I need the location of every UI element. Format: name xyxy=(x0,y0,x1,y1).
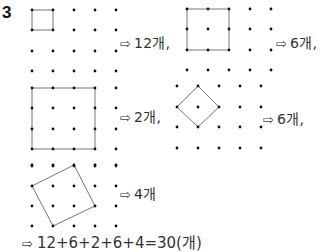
grid-dot xyxy=(94,164,97,167)
grid-dot xyxy=(94,70,97,73)
grid-dot xyxy=(31,148,34,151)
grid-dot xyxy=(52,185,55,188)
grid-dot xyxy=(52,9,55,12)
grid-dot xyxy=(218,147,221,150)
grid-dot xyxy=(186,8,189,11)
grid-dot xyxy=(228,49,231,52)
grid-dot xyxy=(52,29,55,32)
answer-a5: ⇨4개 xyxy=(120,183,156,203)
grid-dot xyxy=(239,106,242,109)
grid-dot xyxy=(94,29,97,32)
grid-dot xyxy=(31,164,34,167)
arrow-icon: ⇨ xyxy=(276,36,287,51)
grid-dot xyxy=(115,205,118,208)
grid-dot xyxy=(73,50,76,53)
grid-dot xyxy=(52,148,55,151)
problem-number: 3 xyxy=(2,3,11,23)
grid-dot xyxy=(115,50,118,53)
grid-dot xyxy=(239,147,242,150)
grid-dot xyxy=(249,69,252,72)
grid-dot xyxy=(260,126,263,129)
grid-dot xyxy=(115,128,118,131)
answer-text: 12개, xyxy=(134,35,170,51)
grid-dot xyxy=(73,205,76,208)
grid-dot xyxy=(176,126,179,129)
grid-dot xyxy=(176,147,179,150)
grid-dot xyxy=(207,69,210,72)
grid-dot xyxy=(73,128,76,131)
grid-dot xyxy=(115,107,118,110)
grid-dot xyxy=(186,69,189,72)
answer-a4: ⇨6개, xyxy=(263,108,304,128)
grid-dot xyxy=(94,128,97,131)
grid-dot xyxy=(249,49,252,52)
grid-dot xyxy=(31,225,34,228)
grid-dot xyxy=(270,49,273,52)
square-3x3 xyxy=(32,88,95,149)
grid-dot xyxy=(228,69,231,72)
square-1x1 xyxy=(32,10,53,30)
grid-dot xyxy=(73,9,76,12)
grid-dot xyxy=(94,9,97,12)
grid-dot xyxy=(52,225,55,228)
grid-dot xyxy=(207,28,210,31)
grid-dot xyxy=(73,87,76,90)
grid-dot xyxy=(239,85,242,88)
grid-dot xyxy=(218,126,221,129)
grid-dot xyxy=(94,205,97,208)
grid-dot xyxy=(94,225,97,228)
grid-mid-left xyxy=(31,87,118,168)
grid-dot xyxy=(73,29,76,32)
grid-dot xyxy=(31,29,34,32)
grid-dot xyxy=(260,85,263,88)
grid-dot xyxy=(31,185,34,188)
grid-dot xyxy=(115,29,118,32)
grid-bottom-left xyxy=(31,164,118,228)
grid-dot xyxy=(270,8,273,11)
grid-dot xyxy=(94,87,97,90)
answer-text: 4개 xyxy=(134,186,156,202)
grid-dot xyxy=(176,85,179,88)
answer-text: 2개, xyxy=(134,109,161,125)
grid-dot xyxy=(115,164,118,167)
grid-dot xyxy=(176,106,179,109)
grid-dot xyxy=(52,128,55,131)
grid-dot xyxy=(94,185,97,188)
grid-dot xyxy=(218,85,221,88)
grid-dot xyxy=(228,8,231,11)
answer-a1: ⇨12개, xyxy=(120,32,170,52)
grid-dot xyxy=(73,225,76,228)
grid-dot xyxy=(52,164,55,167)
square-tilted xyxy=(32,165,95,226)
grid-dot xyxy=(115,225,118,228)
grid-dot xyxy=(52,205,55,208)
grid-dot xyxy=(197,147,200,150)
final-answer-text: 12+6+2+6+4=30(개) xyxy=(37,234,202,252)
grid-dot xyxy=(31,9,34,12)
grid-dot xyxy=(94,148,97,151)
grid-dot xyxy=(260,147,263,150)
grid-dot xyxy=(270,28,273,31)
grid-dot xyxy=(249,8,252,11)
arrow-icon: ⇨ xyxy=(22,236,33,251)
grid-dot xyxy=(31,128,34,131)
grid-dot xyxy=(73,70,76,73)
grid-dot xyxy=(94,107,97,110)
grid-dot xyxy=(239,126,242,129)
grid-dot xyxy=(31,50,34,53)
grid-dot xyxy=(218,106,221,109)
grid-dot xyxy=(52,50,55,53)
grid-dot xyxy=(197,106,200,109)
answer-a2: ⇨6개, xyxy=(276,32,317,52)
grid-dot xyxy=(31,70,34,73)
grid-dot xyxy=(115,148,118,151)
grid-dot xyxy=(31,87,34,90)
grid-dot xyxy=(52,107,55,110)
grid-dot xyxy=(31,107,34,110)
grid-dot xyxy=(115,185,118,188)
grid-dot xyxy=(197,85,200,88)
grid-dot xyxy=(115,9,118,12)
grid-dot xyxy=(228,28,231,31)
answer-text: 6개, xyxy=(290,35,317,51)
grid-dot xyxy=(52,70,55,73)
